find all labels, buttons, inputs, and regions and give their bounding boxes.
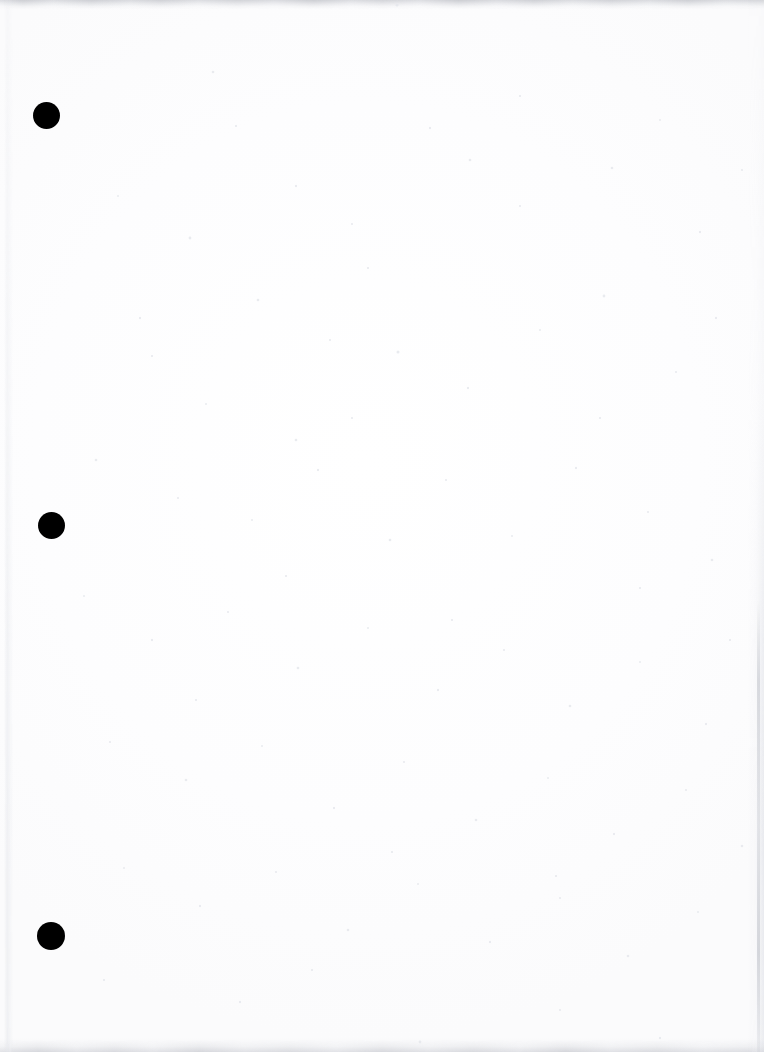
page-edge-right-streak: [757, 600, 760, 1052]
binding-hole-mark: [37, 922, 65, 950]
page-edge-bottom-mottle: [0, 1040, 764, 1052]
page-edge-left-line: [4, 0, 13, 1052]
page-edge-bottom-shadow: [0, 1038, 764, 1052]
scanned-page: [0, 0, 764, 1052]
page-edge-top-mottle: [0, 0, 764, 9]
binding-hole-mark: [33, 102, 60, 129]
page-edge-top-shadow: [0, 0, 764, 10]
binding-hole-mark: [38, 512, 65, 539]
page-content-area: [90, 40, 730, 1010]
page-edge-right-shadow: [748, 0, 764, 1052]
